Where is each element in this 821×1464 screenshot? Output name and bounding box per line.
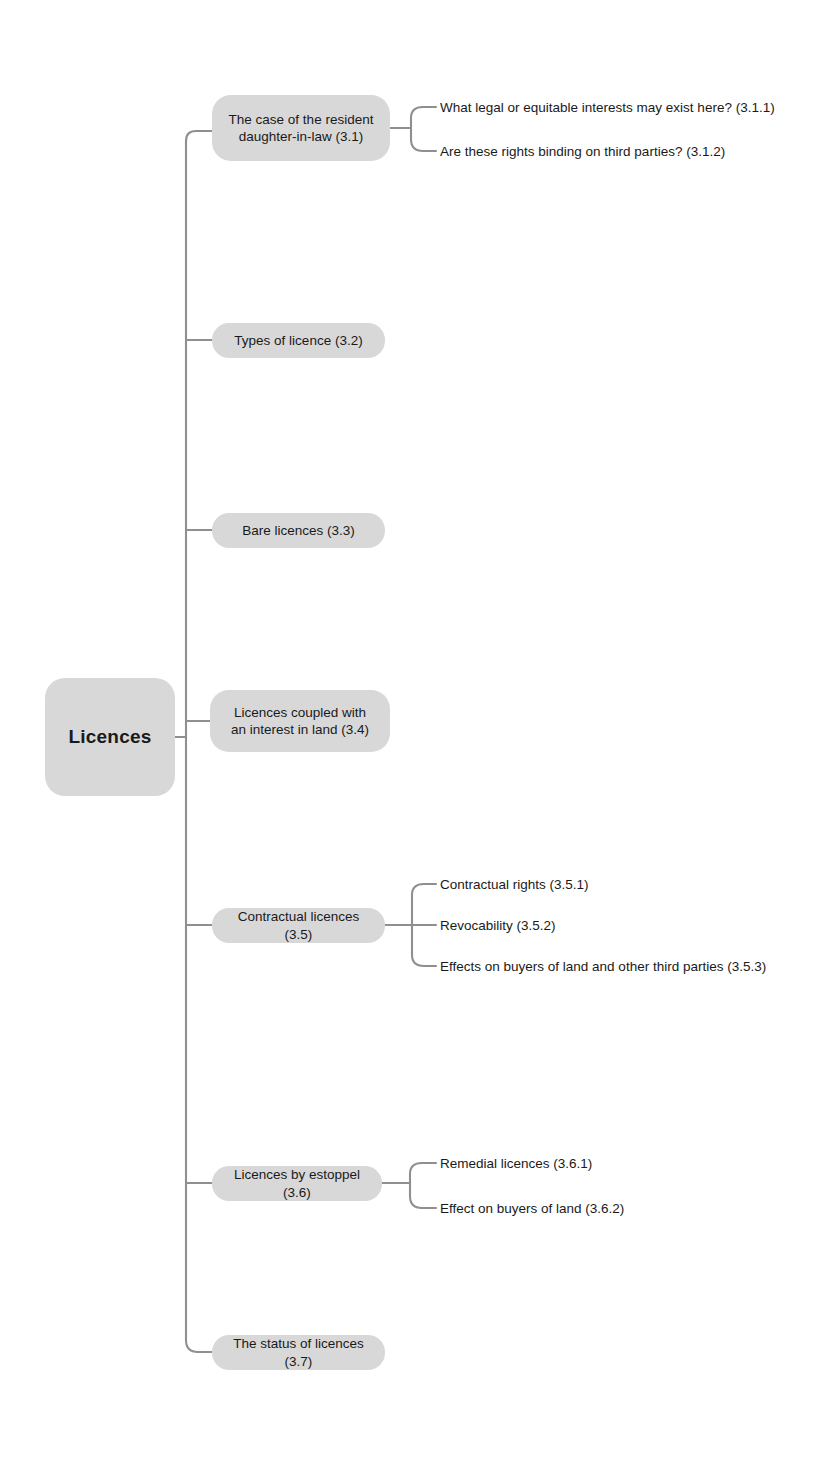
connector-spine xyxy=(186,131,212,1352)
leaf-node-3-1-2-label: Are these rights binding on third partie… xyxy=(440,144,725,159)
leaf-node-3-6-2[interactable]: Effect on buyers of land (3.6.2) xyxy=(440,1202,624,1216)
branch-node-3-1-label: The case of the resident daughter-in-law… xyxy=(217,111,386,146)
leaf-node-3-5-1[interactable]: Contractual rights (3.5.1) xyxy=(440,878,589,892)
leaf-node-3-5-2-label: Revocability (3.5.2) xyxy=(440,918,556,933)
branch-node-3-4-line1: Licences coupled with xyxy=(234,705,366,720)
connector-fork-3-6 xyxy=(410,1163,436,1208)
branch-node-3-7[interactable]: The status of licences (3.7) xyxy=(212,1335,385,1370)
leaf-node-3-5-2[interactable]: Revocability (3.5.2) xyxy=(440,919,556,933)
leaf-node-3-6-2-label: Effect on buyers of land (3.6.2) xyxy=(440,1201,624,1216)
mindmap-canvas: Licences The case of the resident daught… xyxy=(0,0,821,1464)
branch-node-3-3[interactable]: Bare licences (3.3) xyxy=(212,513,385,548)
branch-node-3-2-label: Types of licence (3.2) xyxy=(222,332,374,349)
branch-node-3-2[interactable]: Types of licence (3.2) xyxy=(212,323,385,358)
connector-fork-3-5 xyxy=(412,884,436,966)
connector-fork-3-1 xyxy=(411,107,436,151)
branch-node-3-4-label: Licences coupled with an interest in lan… xyxy=(219,704,381,739)
branch-node-3-4-line2: an interest in land (3.4) xyxy=(231,722,369,737)
leaf-node-3-6-1[interactable]: Remedial licences (3.6.1) xyxy=(440,1157,592,1171)
leaf-node-3-1-1[interactable]: What legal or equitable interests may ex… xyxy=(440,101,775,115)
branch-node-3-7-label: The status of licences (3.7) xyxy=(212,1335,385,1370)
branch-node-3-5[interactable]: Contractual licences (3.5) xyxy=(212,908,385,943)
leaf-node-3-5-1-label: Contractual rights (3.5.1) xyxy=(440,877,589,892)
branch-node-3-1-line2: daughter-in-law (3.1) xyxy=(239,129,364,144)
leaf-node-3-5-3-label: Effects on buyers of land and other thir… xyxy=(440,959,766,974)
root-node-label: Licences xyxy=(57,725,164,749)
root-node[interactable]: Licences xyxy=(45,678,175,796)
branch-node-3-3-label: Bare licences (3.3) xyxy=(230,522,367,539)
branch-node-3-5-label: Contractual licences (3.5) xyxy=(212,908,385,943)
leaf-node-3-1-2[interactable]: Are these rights binding on third partie… xyxy=(440,145,725,159)
branch-node-3-1[interactable]: The case of the resident daughter-in-law… xyxy=(212,95,390,161)
leaf-node-3-1-1-label: What legal or equitable interests may ex… xyxy=(440,100,775,115)
branch-node-3-6-label: Licences by estoppel (3.6) xyxy=(212,1166,382,1201)
leaf-node-3-6-1-label: Remedial licences (3.6.1) xyxy=(440,1156,592,1171)
branch-node-3-1-line1: The case of the resident xyxy=(229,112,374,127)
branch-node-3-4[interactable]: Licences coupled with an interest in lan… xyxy=(210,690,390,752)
branch-node-3-6[interactable]: Licences by estoppel (3.6) xyxy=(212,1166,382,1201)
leaf-node-3-5-3[interactable]: Effects on buyers of land and other thir… xyxy=(440,960,766,974)
